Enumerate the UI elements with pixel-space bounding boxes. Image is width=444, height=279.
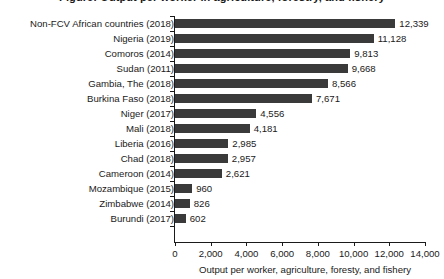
- bar-track: 9,668: [175, 61, 444, 76]
- bar-value-label: 4,556: [256, 106, 284, 121]
- y-tick-mark: [170, 181, 174, 182]
- bar-value-label: 2,621: [222, 166, 250, 181]
- bar[interactable]: [175, 94, 312, 103]
- x-tick-label: 6,000: [270, 248, 294, 259]
- x-tick-mark: [211, 242, 212, 246]
- bar[interactable]: [175, 154, 228, 163]
- bar[interactable]: [175, 169, 222, 178]
- x-tick-mark: [354, 242, 355, 246]
- category-label: Cameroon (2014): [99, 166, 174, 181]
- bar[interactable]: [175, 199, 190, 208]
- bar-value-label: 7,671: [312, 91, 340, 106]
- bar-row[interactable]: Burundi (2017)602: [0, 211, 444, 226]
- y-tick-mark: [170, 136, 174, 137]
- bar-value-label: 2,985: [228, 136, 256, 151]
- x-tick-mark: [318, 242, 319, 246]
- bar-row[interactable]: Gambia, The (2018)8,566: [0, 76, 444, 91]
- bar[interactable]: [175, 109, 256, 118]
- bar-row[interactable]: Cameroon (2014)2,621: [0, 166, 444, 181]
- x-tick-mark: [425, 242, 426, 246]
- category-label: Mali (2018): [126, 121, 174, 136]
- y-tick-mark: [170, 151, 174, 152]
- bar[interactable]: [175, 34, 374, 43]
- bar-row[interactable]: Non-FCV African countries (2018)12,339: [0, 16, 444, 31]
- plot-area: Non-FCV African countries (2018)12,339Ni…: [0, 0, 444, 279]
- y-tick-mark: [170, 211, 174, 212]
- bar-row[interactable]: Mozambique (2015)960: [0, 181, 444, 196]
- bar-value-label: 12,339: [395, 16, 428, 31]
- x-tick-label: 2,000: [199, 248, 223, 259]
- bar-row[interactable]: Mali (2018)4,181: [0, 121, 444, 136]
- x-tick-mark: [175, 242, 176, 246]
- x-tick-label: 8,000: [306, 248, 330, 259]
- category-label: Liberia (2016): [115, 136, 174, 151]
- category-label: Burundi (2017): [111, 211, 174, 226]
- x-tick-label: 12,000: [375, 248, 404, 259]
- bar-value-label: 8,566: [328, 76, 356, 91]
- bar[interactable]: [175, 19, 395, 28]
- y-tick-mark: [170, 226, 174, 227]
- y-tick-mark: [170, 121, 174, 122]
- bar-value-label: 2,957: [228, 151, 256, 166]
- bar[interactable]: [175, 139, 228, 148]
- bar-track: 960: [175, 181, 444, 196]
- y-tick-mark: [170, 91, 174, 92]
- category-label: Zimbabwe (2014): [99, 196, 174, 211]
- bar-value-label: 9,813: [350, 46, 378, 61]
- category-label: Comoros (2014): [105, 46, 174, 61]
- bar[interactable]: [175, 214, 186, 223]
- bar-row[interactable]: Chad (2018)2,957: [0, 151, 444, 166]
- category-label: Non-FCV African countries (2018): [30, 16, 174, 31]
- bar-row[interactable]: Sudan (2011)9,668: [0, 61, 444, 76]
- y-tick-mark: [170, 46, 174, 47]
- chart-container: Figure: Output per worker in agriculture…: [0, 0, 444, 279]
- x-axis-title: Output per worker, agriculture, foresty,…: [174, 264, 436, 275]
- bar-value-label: 4,181: [250, 121, 278, 136]
- x-tick-label: 0: [172, 248, 177, 259]
- bar[interactable]: [175, 64, 348, 73]
- bar[interactable]: [175, 79, 328, 88]
- y-tick-mark: [170, 196, 174, 197]
- category-label: Sudan (2011): [117, 61, 174, 76]
- category-label: Burkina Faso (2018): [87, 91, 174, 106]
- bar-rows: Non-FCV African countries (2018)12,339Ni…: [0, 16, 444, 226]
- category-label: Nigeria (2019): [113, 31, 174, 46]
- bar-row[interactable]: Comoros (2014)9,813: [0, 46, 444, 61]
- bar-track: 4,181: [175, 121, 444, 136]
- bar-track: 8,566: [175, 76, 444, 91]
- bar-row[interactable]: Burkina Faso (2018)7,671: [0, 91, 444, 106]
- bar-row[interactable]: Niger (2017)4,556: [0, 106, 444, 121]
- bar-value-label: 9,668: [348, 61, 376, 76]
- category-label: Chad (2018): [121, 151, 174, 166]
- y-tick-mark: [170, 166, 174, 167]
- category-label: Gambia, The (2018): [88, 76, 174, 91]
- bar-row[interactable]: Nigeria (2019)11,128: [0, 31, 444, 46]
- bar-value-label: 960: [192, 181, 212, 196]
- bar-row[interactable]: Liberia (2016)2,985: [0, 136, 444, 151]
- bar-track: 11,128: [175, 31, 444, 46]
- y-tick-mark: [170, 76, 174, 77]
- y-tick-mark: [170, 16, 174, 17]
- category-label: Mozambique (2015): [89, 181, 174, 196]
- bar-track: 602: [175, 211, 444, 226]
- y-tick-mark: [170, 31, 174, 32]
- y-tick-mark: [170, 106, 174, 107]
- x-tick-label: 14,000: [410, 248, 439, 259]
- bar-track: 12,339: [175, 16, 444, 31]
- bar-value-label: 826: [190, 196, 210, 211]
- y-tick-mark: [170, 61, 174, 62]
- bar-value-label: 602: [186, 211, 206, 226]
- category-label: Niger (2017): [121, 106, 174, 121]
- bar-track: 2,957: [175, 151, 444, 166]
- bar-track: 7,671: [175, 91, 444, 106]
- bar-track: 2,985: [175, 136, 444, 151]
- bar-value-label: 11,128: [374, 31, 407, 46]
- bar[interactable]: [175, 124, 250, 133]
- bar-row[interactable]: Zimbabwe (2014)826: [0, 196, 444, 211]
- bar[interactable]: [175, 184, 192, 193]
- x-tick-label: 10,000: [339, 248, 368, 259]
- bar-track: 9,813: [175, 46, 444, 61]
- bar-track: 2,621: [175, 166, 444, 181]
- bar[interactable]: [175, 49, 350, 58]
- x-tick-mark: [246, 242, 247, 246]
